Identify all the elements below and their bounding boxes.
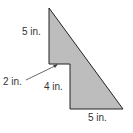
label-top-left-side: 5 in. [22,27,41,37]
arrow-head-icon [53,64,58,68]
label-step-width: 2 in. [3,77,22,87]
composite-shape [49,8,123,109]
diagram-canvas: 5 in. 2 in. 4 in. 5 in. [0,0,133,133]
shape-figure [0,0,133,133]
label-lower-left-side: 4 in. [44,82,63,92]
pointer-arrow [26,65,57,80]
label-bottom-side: 5 in. [88,113,107,123]
